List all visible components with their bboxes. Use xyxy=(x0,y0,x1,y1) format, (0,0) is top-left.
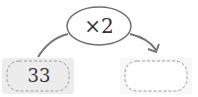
arrow-arc-left xyxy=(38,34,68,57)
input-value: 33 xyxy=(8,64,70,88)
arrow-arc-right xyxy=(130,34,156,50)
operator-label: ×2 xyxy=(66,14,132,38)
output-value xyxy=(124,64,186,88)
